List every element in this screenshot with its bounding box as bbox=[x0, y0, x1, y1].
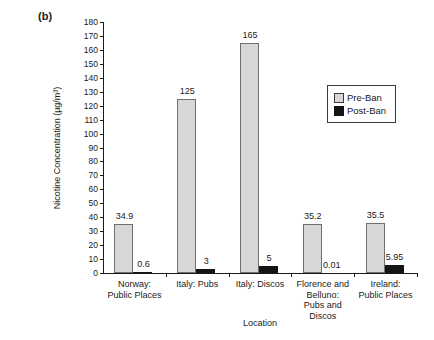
x-category-label: Norway:Public Places bbox=[99, 279, 170, 300]
y-tick-label: 150 bbox=[70, 59, 98, 69]
pre-ban-bar bbox=[240, 43, 259, 273]
pre-ban-swatch bbox=[334, 93, 344, 103]
post-ban-swatch bbox=[334, 106, 344, 116]
pre-ban-bar bbox=[366, 223, 385, 273]
x-tick-mark bbox=[291, 274, 292, 277]
y-tick-mark bbox=[100, 36, 103, 37]
y-tick-label: 10 bbox=[70, 254, 98, 264]
y-tick-mark bbox=[100, 78, 103, 79]
pre-ban-value-label: 34.9 bbox=[116, 211, 134, 222]
y-tick-mark bbox=[100, 189, 103, 190]
post-ban-value-label: 3 bbox=[204, 256, 209, 267]
pre-ban-value-label: 35.5 bbox=[367, 210, 385, 221]
y-tick-mark bbox=[100, 231, 103, 232]
legend: Pre-Ban Post-Ban bbox=[327, 85, 396, 123]
y-tick-label: 0 bbox=[70, 268, 98, 278]
y-tick-mark bbox=[100, 175, 103, 176]
x-axis-title: Location bbox=[103, 318, 417, 328]
pre-ban-value-label: 35.2 bbox=[304, 211, 322, 222]
y-tick-mark bbox=[100, 245, 103, 246]
y-tick-mark bbox=[100, 148, 103, 149]
y-tick-mark bbox=[100, 50, 103, 51]
figure-panel-label: (b) bbox=[38, 10, 52, 22]
y-tick-label: 100 bbox=[70, 129, 98, 139]
legend-item-post-ban: Post-Ban bbox=[334, 104, 386, 117]
y-tick-mark bbox=[100, 259, 103, 260]
post-ban-value-label: 5 bbox=[266, 253, 271, 264]
pre-ban-bar bbox=[114, 224, 133, 273]
y-tick-label: 160 bbox=[70, 45, 98, 55]
y-axis-title: Nicotine Concentration (µg/m³) bbox=[52, 87, 62, 210]
legend-item-pre-ban: Pre-Ban bbox=[334, 91, 386, 104]
post-ban-bar bbox=[385, 265, 404, 273]
y-tick-label: 20 bbox=[70, 240, 98, 250]
x-category-label: Italy: Pubs bbox=[162, 279, 233, 290]
y-tick-mark bbox=[100, 106, 103, 107]
y-tick-label: 180 bbox=[70, 17, 98, 27]
y-tick-label: 130 bbox=[70, 87, 98, 97]
x-tick-mark bbox=[417, 274, 418, 277]
x-category-label: Florence andBelluno:Pubs andDiscos bbox=[287, 279, 358, 321]
y-tick-mark bbox=[100, 273, 103, 274]
post-ban-bar bbox=[259, 266, 278, 273]
post-ban-value-label: 5.95 bbox=[386, 252, 404, 263]
y-tick-label: 120 bbox=[70, 101, 98, 111]
x-category-label: Italy: Discos bbox=[225, 279, 296, 290]
y-tick-mark bbox=[100, 64, 103, 65]
x-tick-mark bbox=[166, 274, 167, 277]
y-tick-mark bbox=[100, 217, 103, 218]
pre-ban-bar bbox=[177, 99, 196, 273]
post-ban-value-label: 0.01 bbox=[323, 260, 341, 271]
y-tick-label: 110 bbox=[70, 115, 98, 125]
pre-ban-value-label: 125 bbox=[180, 86, 195, 97]
y-tick-label: 50 bbox=[70, 198, 98, 208]
y-tick-label: 170 bbox=[70, 31, 98, 41]
y-tick-mark bbox=[100, 161, 103, 162]
y-tick-mark bbox=[100, 203, 103, 204]
nicotine-concentration-bar-chart: (b) Nicotine Concentration (µg/m³) 01020… bbox=[0, 0, 434, 340]
y-tick-label: 140 bbox=[70, 73, 98, 83]
y-tick-label: 70 bbox=[70, 170, 98, 180]
y-tick-mark bbox=[100, 92, 103, 93]
y-tick-label: 30 bbox=[70, 226, 98, 236]
x-tick-mark bbox=[229, 274, 230, 277]
x-category-label: Ireland:Public Places bbox=[350, 279, 421, 300]
post-ban-bar bbox=[196, 269, 215, 273]
y-tick-mark bbox=[100, 120, 103, 121]
y-tick-label: 80 bbox=[70, 156, 98, 166]
pre-ban-bar bbox=[303, 224, 322, 273]
post-ban-bar bbox=[133, 272, 152, 273]
y-tick-mark bbox=[100, 134, 103, 135]
y-tick-label: 40 bbox=[70, 212, 98, 222]
y-tick-label: 60 bbox=[70, 184, 98, 194]
pre-ban-value-label: 165 bbox=[242, 30, 257, 41]
x-tick-mark bbox=[354, 274, 355, 277]
legend-label-post-ban: Post-Ban bbox=[347, 105, 386, 116]
y-tick-mark bbox=[100, 22, 103, 23]
y-tick-label: 90 bbox=[70, 143, 98, 153]
post-ban-value-label: 0.6 bbox=[137, 259, 150, 270]
legend-label-pre-ban: Pre-Ban bbox=[347, 92, 382, 103]
